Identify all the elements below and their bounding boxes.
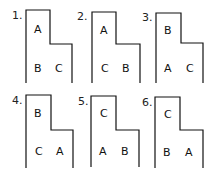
label-bottom-right: C [186,62,194,75]
panel-number: 3. [142,11,153,24]
label-top: C [164,108,172,121]
panel-number: 5. [78,95,89,108]
label-bottom-left: B [163,146,171,159]
label-bottom-right: B [122,62,130,75]
label-bottom-right: A [56,145,64,158]
panel-4: 4. B C A [12,94,73,168]
label-top: C [100,107,108,120]
label-bottom-left: A [99,145,107,158]
panel-6: 6. C B A [142,96,203,168]
label-top: B [164,24,172,37]
panel-number: 6. [142,96,153,109]
step-outline [26,10,72,83]
panel-1: 1. A B C [12,9,72,83]
label-top: A [34,23,42,36]
label-bottom-left: C [101,62,109,75]
label-bottom-left: B [34,62,42,75]
label-bottom-left: A [164,62,172,75]
label-bottom-right: B [121,145,129,158]
panel-number: 4. [12,94,23,107]
step-outline [92,12,140,83]
arrangements-diagram: 1. A B C 2. A C B 3. B A C 4. B C A 5. C… [0,0,223,176]
label-bottom-right: A [185,146,193,159]
panel-3: 3. B A C [142,11,203,83]
panel-number: 1. [12,9,23,22]
label-bottom-right: C [55,62,63,75]
panel-2: 2. A C B [77,10,140,83]
label-bottom-left: C [35,145,43,158]
step-outline [26,95,73,168]
panel-number: 2. [77,10,88,23]
panel-5: 5. C A B [78,95,139,167]
label-top: A [100,24,108,37]
label-top: B [34,107,42,120]
